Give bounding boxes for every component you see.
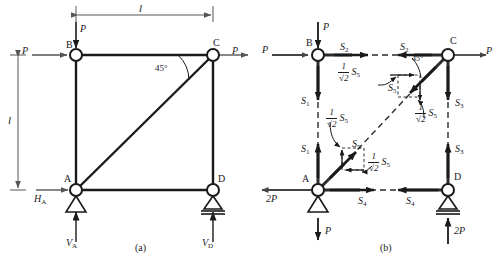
- member-ac-diagonal: [76, 55, 213, 190]
- member-label-s3-upper: S3: [455, 98, 464, 110]
- caption-a: (a): [135, 243, 146, 253]
- joint-d-b: [442, 184, 454, 196]
- load-label-p-down-b-a: P: [80, 24, 86, 34]
- joint-c-b: [442, 49, 454, 61]
- truss-members-a: [76, 55, 213, 190]
- component-tail-2: S5: [428, 107, 437, 120]
- member-label-s1-lower: S1: [301, 144, 310, 156]
- component-tail-1: S5: [351, 66, 360, 79]
- member-label-s4-left: S4: [358, 196, 367, 208]
- load-label-2p-up-d-b: 2P: [454, 226, 465, 236]
- truss-figure-svg: [0, 0, 500, 262]
- member-label-s2-left: S2: [340, 42, 349, 54]
- reaction-label-va: VA: [66, 238, 77, 250]
- component-label-s5-1: 1 √2 S5: [338, 62, 360, 83]
- reaction-label-ha: HA: [34, 194, 46, 206]
- joint-label-a-a: A: [64, 174, 71, 184]
- load-label-p-down-b-b: P: [323, 22, 329, 32]
- joint-label-c-a: C: [213, 38, 220, 48]
- joint-label-b-b: B: [306, 38, 313, 48]
- joint-b-a: [70, 49, 82, 61]
- caption-b: (b): [380, 243, 392, 253]
- panel-b-group: [262, 22, 486, 244]
- load-label-p-left-b-a: P: [22, 46, 28, 56]
- member-label-s1-upper: S1: [301, 96, 310, 108]
- component-decomp-a: [342, 148, 364, 170]
- member-label-s5-upper: S5: [388, 83, 397, 95]
- load-label-p-left-b-b: P: [262, 45, 268, 55]
- angle-arc-a: [178, 55, 189, 80]
- component-tail-4: S5: [381, 156, 390, 169]
- support-pin-a: [66, 196, 86, 212]
- joint-label-d-a: D: [218, 174, 225, 184]
- dimension-horizontal: [76, 6, 213, 22]
- joint-label-c-b: C: [450, 36, 457, 46]
- member-label-s2-right: S2: [400, 42, 409, 54]
- dimension-vertical-label: l: [8, 115, 11, 126]
- joint-d-a: [207, 184, 219, 196]
- joint-label-b-a: B: [66, 40, 73, 50]
- angle-label-b: 45°: [412, 55, 423, 63]
- member-label-s5-lower: S5: [352, 139, 361, 151]
- support-roller-d: [201, 196, 225, 214]
- dimension-horizontal-label: l: [139, 3, 142, 14]
- support-pin-a-b: [308, 196, 328, 212]
- angle-label-a: 45°: [155, 64, 168, 73]
- support-roller-d-b: [436, 196, 460, 214]
- member-label-s3-lower: S3: [455, 144, 464, 156]
- load-label-2p-left-a-b: 2P: [266, 194, 277, 204]
- dimension-vertical: [10, 55, 26, 190]
- load-label-p-down-a-b: P: [325, 226, 331, 236]
- joint-label-a-b: A: [302, 174, 309, 184]
- load-label-p-right-c-b: P: [486, 46, 492, 56]
- joint-c-a: [207, 49, 219, 61]
- reaction-label-vd: VD: [202, 238, 213, 250]
- component-tail-3: S5: [339, 112, 348, 125]
- component-label-s5-3: 1 √2 S5: [326, 108, 348, 129]
- component-label-s5-4: 1 √2 S5: [368, 152, 390, 173]
- load-label-p-right-c-a: P: [232, 46, 238, 56]
- joint-b-b: [312, 49, 324, 61]
- joint-label-d-b: D: [454, 172, 461, 182]
- joint-a-a: [70, 184, 82, 196]
- figure-canvas: l l B C A D P P P 45° HA VA VD (a) B C A…: [0, 0, 500, 262]
- component-label-s5-2: 1 √2 S5: [415, 103, 437, 124]
- joint-a-b: [312, 184, 324, 196]
- member-label-s4-right: S4: [406, 196, 415, 208]
